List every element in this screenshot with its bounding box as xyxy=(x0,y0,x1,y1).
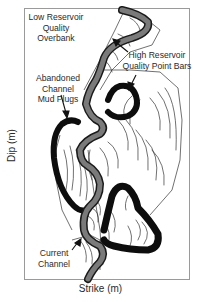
label-overbank: Low Reservoir Quality Overbank xyxy=(26,12,86,44)
label-point-bars: High Reservoir Quality Point Bars xyxy=(122,50,192,71)
label-current-channel: Current Channel xyxy=(34,248,74,269)
label-line: Mud Plugs xyxy=(33,94,83,105)
arrow-head-icon xyxy=(63,111,69,118)
label-line: Channel xyxy=(33,84,83,95)
y-axis-label: Dip (m) xyxy=(6,126,17,166)
label-mud-plugs: Abandoned Channel Mud Plugs xyxy=(33,73,83,105)
x-axis-label: Strike (m) xyxy=(0,283,201,294)
label-line: Channel xyxy=(34,259,74,270)
point-bar-boundaries xyxy=(56,9,182,270)
label-line: Current xyxy=(34,248,74,259)
label-line: High Reservoir xyxy=(122,50,192,61)
label-line: Quality Point Bars xyxy=(122,61,192,72)
label-line: Abandoned xyxy=(33,73,83,84)
label-line: Low Reservoir xyxy=(26,12,86,23)
label-line: Quality xyxy=(26,23,86,34)
channel-map-diagram xyxy=(0,0,201,302)
label-line: Overbank xyxy=(26,33,86,44)
